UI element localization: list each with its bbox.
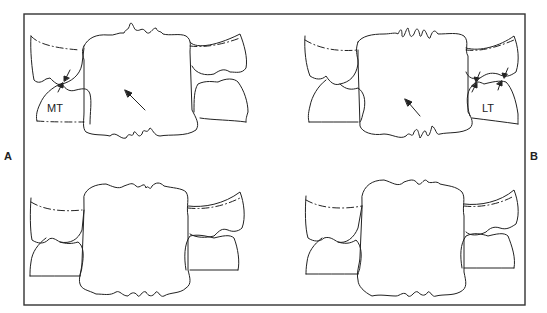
panel-label-b: B xyxy=(530,150,538,162)
upper-right-tooth-a2 xyxy=(188,192,244,237)
cej-line xyxy=(306,200,362,208)
upper-left-tooth-b2 xyxy=(305,196,362,242)
arrow-head-icon xyxy=(502,73,507,78)
arrow-head-icon xyxy=(474,77,479,82)
central-tooth-b-top xyxy=(357,28,473,138)
arrow-line xyxy=(128,93,145,110)
panel-label-a: A xyxy=(4,150,12,162)
lower-left-tooth-b xyxy=(308,80,364,122)
figure-canvas: MT LT xyxy=(0,0,547,313)
figure-frame xyxy=(24,14,525,305)
lower-left-tooth-b2 xyxy=(306,238,361,274)
lt-label: LT xyxy=(482,102,494,114)
panel-b-top-teeth xyxy=(305,28,518,138)
cej-line xyxy=(37,121,84,122)
mt-label: MT xyxy=(47,102,63,114)
upper-right-tooth-b2 xyxy=(464,190,518,235)
upper-left-tooth-a xyxy=(31,36,84,85)
arrow-head-icon xyxy=(58,83,63,88)
upper-right-tooth-b xyxy=(466,36,518,79)
lower-right-tooth-a xyxy=(194,79,248,122)
panel-b-bottom-teeth xyxy=(305,180,518,296)
arrow-head-icon xyxy=(64,76,69,81)
upper-left-tooth-b xyxy=(305,36,358,85)
panel-a-bottom-teeth xyxy=(30,183,244,296)
central-tooth-a-top xyxy=(83,23,198,138)
lower-right-tooth-b2 xyxy=(461,234,515,268)
cej-line xyxy=(31,202,82,211)
lower-left-tooth-a xyxy=(36,84,90,124)
lower-right-tooth-a2 xyxy=(185,235,239,270)
panel-a-top-teeth xyxy=(31,23,248,138)
central-tooth-a-bottom xyxy=(79,183,190,296)
cej-line xyxy=(31,36,80,50)
central-tooth-b-bottom xyxy=(357,180,465,296)
upper-left-tooth-a2 xyxy=(30,198,84,243)
cej-line xyxy=(305,40,358,51)
upper-right-tooth-a xyxy=(190,34,247,75)
dental-occlusion-figure: MT LT A B xyxy=(0,0,547,313)
lower-left-tooth-a2 xyxy=(30,238,83,276)
